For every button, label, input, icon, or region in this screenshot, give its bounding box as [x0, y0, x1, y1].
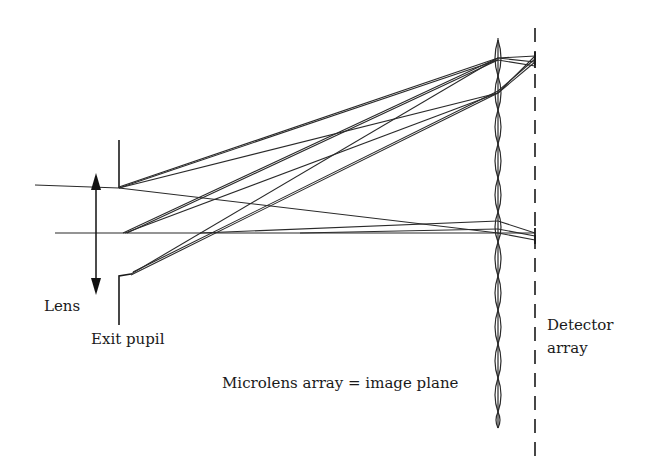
lens-label: Lens — [44, 297, 80, 316]
lens-arrow-icon — [91, 173, 101, 295]
detector-label-line2: array — [547, 339, 588, 358]
optical-axis — [35, 185, 498, 233]
microlens-array-label: Microlens array = image plane — [222, 374, 458, 393]
detector-label-line1: Detector — [547, 316, 613, 335]
ray-bundles — [119, 56, 535, 275]
optical-ray-diagram — [0, 0, 659, 470]
microlens-array — [495, 38, 501, 428]
exit-pupil-label: Exit pupil — [91, 330, 164, 349]
